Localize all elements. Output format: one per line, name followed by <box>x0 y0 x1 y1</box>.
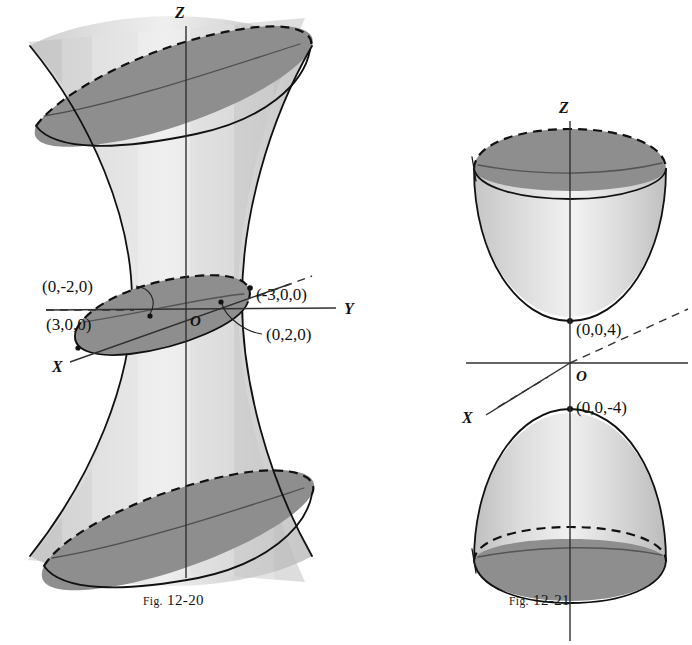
origin-marker: O <box>576 368 587 384</box>
point-0-2-0-label: (0,2,0) <box>266 325 311 344</box>
point-0-0-4: (0,0,4) <box>576 320 621 339</box>
origin-label: O <box>576 368 587 384</box>
z-axis-label: Z <box>558 99 569 116</box>
point-0-neg2-0-label: (0,-2,0) <box>42 277 93 296</box>
figure-hyperboloid-one-sheet: Z Y X O (0,-2,0) (3,0,0) <box>0 0 420 600</box>
caption-prefix-right: Fig. <box>509 595 529 607</box>
caption-number-left: 12-20 <box>167 592 204 608</box>
caption-fig-12-21: Fig. 12-21 <box>509 592 570 609</box>
upper-sheet <box>472 129 666 324</box>
y-axis-label: Y <box>344 300 355 317</box>
x-axis-label: X <box>461 409 473 426</box>
point-0-0-4-label: (0,0,4) <box>576 320 621 339</box>
point-0-0-neg4-label: (0,0,-4) <box>576 398 627 417</box>
x-axis-label: X <box>51 358 63 375</box>
point-neg3-0-0-label: (-3,0,0) <box>256 285 307 304</box>
figure-hyperboloid-two-sheets: Z X O (0,0,4) (0,0,-4) <box>452 95 692 645</box>
point-neg3-0-0: (-3,0,0) <box>247 285 307 304</box>
z-axis-label: Z <box>174 4 185 21</box>
origin-marker: O <box>190 313 201 329</box>
caption-fig-12-20: Fig. 12-20 <box>143 592 204 609</box>
lower-sheet <box>472 406 666 603</box>
caption-number-right: 12-21 <box>533 592 570 608</box>
point-0-0-neg4: (0,0,-4) <box>576 398 627 417</box>
point-3-0-0-label: (3,0,0) <box>46 315 91 334</box>
caption-prefix-left: Fig. <box>143 595 163 607</box>
origin-label: O <box>190 313 201 329</box>
